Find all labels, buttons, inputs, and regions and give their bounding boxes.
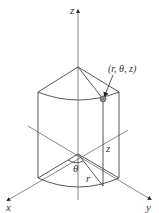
apex-to-point-line [78,67,103,99]
x-axis-label: x [5,201,11,213]
z-height-label: z [105,142,111,154]
bottom-wedge-right-edge [78,154,119,178]
theta-label: θ [73,162,79,174]
cylindrical-coordinates-diagram: z x y (r, θ, z) θ r z [0,0,159,213]
bottom-wedge-left-edge [38,154,78,178]
bottom-arc [38,178,119,187]
radius-line [78,154,103,186]
top-wedge-left-edge [38,67,78,92]
r-label: r [86,172,91,184]
point-marker [100,96,106,102]
point-pointer [105,75,113,95]
x-axis [8,130,128,200]
y-axis [28,126,150,199]
point-label: (r, θ, z) [108,63,137,75]
top-arc [38,92,119,100]
y-axis-label: y [145,201,151,213]
z-axis-label: z [69,4,75,16]
